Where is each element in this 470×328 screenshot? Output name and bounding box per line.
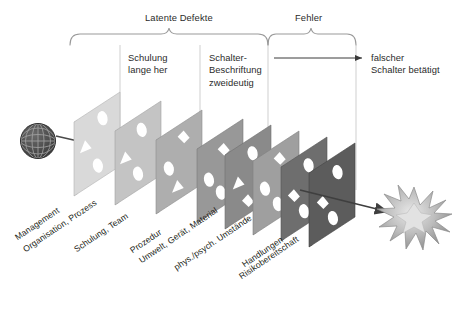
slice-face: [74, 92, 120, 196]
cheese-slice: [115, 101, 161, 205]
column-note-line: Schulung: [128, 52, 168, 64]
globe-icon: [20, 123, 56, 159]
column-note: Schalter-Beschriftungzweideutig: [209, 52, 262, 89]
column-note-line: zweideutig: [209, 77, 262, 89]
bracket-fehler: [268, 28, 356, 45]
column-note-line: lange her: [128, 64, 168, 76]
slice-face: [156, 110, 202, 214]
bracket-label: Latente Defekte: [145, 12, 213, 23]
bracket-label: Fehler: [295, 12, 322, 23]
cheese-slice: [74, 92, 120, 196]
column-note-line: Schalter-: [209, 52, 262, 64]
column-note-line: falscher: [371, 52, 440, 64]
swiss-cheese-diagram: [0, 0, 470, 328]
accident-star-icon: [377, 185, 452, 250]
column-note: Schulunglange her: [128, 52, 168, 77]
bracket-latente-defekte: [70, 28, 268, 45]
column-note: falscherSchalter betätigt: [371, 52, 440, 77]
column-note-line: Beschriftung: [209, 64, 262, 76]
slice-face: [115, 101, 161, 205]
column-note-line: Schalter betätigt: [371, 64, 440, 76]
diagram-canvas: Latente DefekteFehler Schulunglange herS…: [0, 0, 470, 328]
cheese-slice: [156, 110, 202, 214]
